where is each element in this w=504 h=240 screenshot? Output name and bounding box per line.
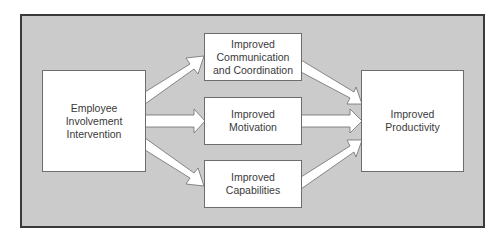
- node-label-line: Improved: [385, 108, 439, 121]
- node-label-line: Improved: [213, 38, 293, 51]
- node-label-line: Motivation: [229, 121, 277, 134]
- node-improved-communication: Improved Communication and Coordination: [204, 33, 302, 81]
- node-label-line: Communication: [213, 51, 293, 64]
- node-improved-capabilities: Improved Capabilities: [204, 160, 302, 208]
- node-label-line: Capabilities: [226, 184, 280, 197]
- arrow-communication-to-target: [301, 60, 362, 104]
- node-label-line: Improved: [229, 108, 277, 121]
- node-label-line: Involvement: [66, 115, 123, 128]
- node-label-line: and Coordination: [213, 64, 293, 77]
- arrow-source-to-motivation: [145, 109, 205, 133]
- arrow-capabilities-to-target: [301, 140, 362, 189]
- node-label-line: Improved: [226, 171, 280, 184]
- arrow-source-to-capabilities: [145, 138, 204, 186]
- node-improved-motivation: Improved Motivation: [204, 97, 302, 145]
- node-label-line: Employee: [66, 102, 123, 115]
- node-improved-productivity: Improved Productivity: [361, 70, 464, 172]
- arrow-source-to-communication: [145, 56, 204, 104]
- node-label-line: Productivity: [385, 121, 439, 134]
- node-label-line: Intervention: [66, 128, 123, 141]
- node-employee-involvement-intervention: Employee Involvement Intervention: [42, 70, 146, 172]
- arrow-motivation-to-target: [301, 109, 362, 133]
